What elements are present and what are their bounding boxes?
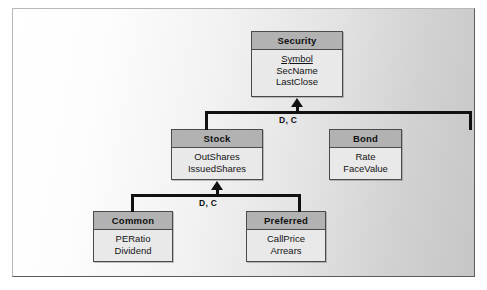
- attribute-peratio: PERatio: [94, 233, 172, 245]
- attribute-issuedshares: IssuedShares: [172, 163, 262, 175]
- connector-drop-common: [131, 194, 134, 212]
- connector-crossbar-lower: [131, 194, 301, 197]
- entity-stock-title: Stock: [172, 130, 262, 148]
- attribute-outshares: OutShares: [172, 151, 262, 163]
- connector-label-lower: D, C: [199, 198, 217, 208]
- entity-security-attributes: Symbol SecName LastClose: [252, 50, 342, 92]
- connector-drop-bond: [469, 111, 472, 130]
- attribute-callprice: CallPrice: [247, 233, 325, 245]
- entity-stock[interactable]: Stock OutShares IssuedShares: [171, 129, 263, 180]
- entity-security[interactable]: Security Symbol SecName LastClose: [251, 31, 343, 97]
- entity-bond-attributes: Rate FaceValue: [330, 148, 401, 178]
- entity-common[interactable]: Common PERatio Dividend: [93, 211, 173, 262]
- entity-preferred-title: Preferred: [247, 212, 325, 230]
- attribute-arrears: Arrears: [247, 245, 325, 257]
- attribute-symbol: Symbol: [252, 53, 342, 65]
- connector-drop-preferred: [298, 194, 301, 212]
- entity-preferred-attributes: CallPrice Arrears: [247, 230, 325, 260]
- entity-preferred[interactable]: Preferred CallPrice Arrears: [246, 211, 326, 262]
- connector-crossbar-upper: [205, 111, 472, 114]
- entity-security-title: Security: [252, 32, 342, 50]
- diagram-frame: Security Symbol SecName LastClose Stock …: [12, 8, 475, 277]
- entity-common-title: Common: [94, 212, 172, 230]
- connector-label-upper: D, C: [279, 115, 297, 125]
- attribute-lastclose: LastClose: [252, 76, 342, 88]
- entity-common-attributes: PERatio Dividend: [94, 230, 172, 260]
- attribute-rate: Rate: [330, 151, 401, 163]
- entity-bond[interactable]: Bond Rate FaceValue: [329, 129, 402, 180]
- entity-bond-title: Bond: [330, 130, 401, 148]
- attribute-facevalue: FaceValue: [330, 163, 401, 175]
- attribute-dividend: Dividend: [94, 245, 172, 257]
- connector-drop-stock: [205, 111, 208, 130]
- entity-stock-attributes: OutShares IssuedShares: [172, 148, 262, 178]
- attribute-secname: SecName: [252, 65, 342, 77]
